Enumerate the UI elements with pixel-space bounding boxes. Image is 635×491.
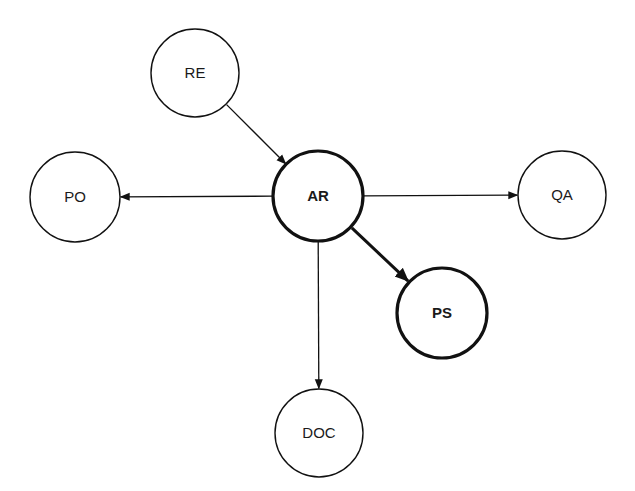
node-po: PO xyxy=(30,152,120,242)
node-ar-label: AR xyxy=(307,187,329,204)
diagram-canvas: REARPOQAPSDOC xyxy=(0,0,635,491)
node-re: RE xyxy=(151,29,239,117)
edge-ar-to-qa-arrow xyxy=(364,195,518,196)
edge-ar-to-ps-arrow xyxy=(352,228,408,281)
node-ps: PS xyxy=(397,268,487,358)
node-po-label: PO xyxy=(64,188,86,205)
edge-ar-to-po-arrow xyxy=(121,196,273,197)
node-re-label: RE xyxy=(185,64,206,81)
edge-ar-to-doc-arrow xyxy=(318,242,319,389)
node-doc-label: DOC xyxy=(302,424,336,441)
node-doc: DOC xyxy=(275,389,363,477)
node-ps-label: PS xyxy=(432,304,452,321)
node-qa: QA xyxy=(518,151,606,239)
node-ar: AR xyxy=(273,151,363,241)
node-qa-label: QA xyxy=(551,186,573,203)
edge-re-to-ar-arrow xyxy=(227,105,286,164)
